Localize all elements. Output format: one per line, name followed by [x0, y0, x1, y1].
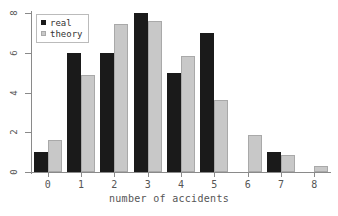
bar-theory-5: [214, 100, 228, 172]
bar-theory-7: [281, 155, 295, 172]
bar-theory-6: [248, 135, 262, 172]
x-tick-mark: [281, 173, 282, 177]
y-tick-label: 2: [9, 122, 19, 142]
legend-item-theory[interactable]: theory: [41, 28, 83, 39]
bar-real-7: [267, 152, 281, 172]
x-tick-mark: [48, 173, 49, 177]
x-tick-mark: [214, 173, 215, 177]
bar-theory-4: [181, 56, 195, 172]
x-axis-label: number of accidents: [0, 193, 338, 205]
bar-real-5: [200, 33, 214, 172]
x-tick-mark: [81, 173, 82, 177]
bar-real-1: [67, 53, 81, 172]
x-tick-label: 5: [202, 179, 226, 191]
bar-chart-figure: 02468 012345678 number of accidents real…: [0, 0, 338, 216]
bar-theory-0: [48, 140, 62, 172]
x-tick-label: 2: [102, 179, 126, 191]
y-tick-label: 0: [9, 162, 19, 182]
x-tick-label: 3: [136, 179, 160, 191]
y-tick-label: 6: [9, 43, 19, 63]
bar-theory-1: [81, 75, 95, 172]
x-tick-label: 4: [169, 179, 193, 191]
x-tick-label: 8: [302, 179, 326, 191]
chart-legend: real theory: [36, 14, 89, 43]
x-tick-mark: [181, 173, 182, 177]
legend-item-real[interactable]: real: [41, 17, 83, 28]
y-tick-label: 8: [9, 3, 19, 23]
bar-real-4: [167, 73, 181, 172]
legend-swatch-theory-icon: [41, 31, 46, 36]
x-tick-label: 1: [69, 179, 93, 191]
x-tick-label: 6: [236, 179, 260, 191]
legend-label-real: real: [50, 18, 72, 28]
x-tick-mark: [114, 173, 115, 177]
x-tick-mark: [314, 173, 315, 177]
bar-theory-3: [148, 21, 162, 172]
y-tick-mark: [25, 172, 31, 173]
bar-real-0: [34, 152, 48, 172]
x-tick-mark: [248, 173, 249, 177]
x-tick-label: 7: [269, 179, 293, 191]
legend-label-theory: theory: [50, 29, 83, 39]
bar-theory-2: [114, 24, 128, 172]
x-tick-label: 0: [36, 179, 60, 191]
bar-theory-8: [314, 166, 328, 172]
x-tick-mark: [148, 173, 149, 177]
y-tick-label: 4: [9, 83, 19, 103]
bar-real-3: [134, 13, 148, 172]
legend-swatch-real-icon: [41, 20, 46, 25]
bar-real-2: [100, 53, 114, 172]
